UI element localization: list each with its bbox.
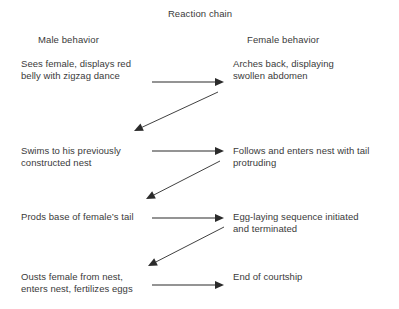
male-step-3-line-1: Prods base of female’s tail [21,211,161,223]
arrow-female1-to-male2 [134,92,218,131]
column-header-female: Female behavior [247,34,319,46]
male-behavior-step-3: Prods base of female’s tail [21,211,161,223]
arrow-male3-to-female3-head [215,214,224,222]
arrow-male1-to-female1 [152,78,224,86]
male-behavior-step-2: Swims to his previously constructed nest [21,145,161,170]
arrow-male2-to-female2-head [215,147,224,155]
male-step-4-line-2: enters nest, fertilizes eggs [21,283,161,295]
arrow-female2-to-male3-shaft [154,161,220,195]
arrow-male3-to-female3 [152,214,224,222]
page-title: Reaction chain [150,8,250,20]
male-step-2-line-2: constructed nest [21,157,161,169]
female-step-1-line-1: Arches back, displaying [233,58,393,70]
arrow-female3-to-male4 [148,227,224,266]
male-step-1-line-1: Sees female, displays red [21,58,161,70]
arrow-female3-to-male4-head [148,258,158,266]
male-step-4-line-1: Ousts female from nest, [21,271,161,283]
arrow-male2-to-female2 [152,147,224,155]
female-step-3-line-1: Egg-laying sequence initiated [233,211,393,223]
column-header-male: Male behavior [38,34,99,46]
reaction-chain-diagram: Reaction chain Male behavior Female beha… [0,0,399,309]
arrow-male4-to-female4-head [215,281,224,289]
female-behavior-step-1: Arches back, displaying swollen abdomen [233,58,393,83]
female-behavior-step-2: Follows and enters nest with tail protru… [233,145,393,170]
male-step-2-line-1: Swims to his previously [21,145,161,157]
female-behavior-step-4: End of courtship [233,271,393,283]
female-behavior-step-3: Egg-laying sequence initiated and termin… [233,211,393,236]
female-step-2-line-2: protruding [233,157,393,169]
arrow-male4-to-female4 [152,281,224,289]
female-step-1-line-2: swollen abdomen [233,70,393,82]
arrow-male1-to-female1-head [215,78,224,86]
male-behavior-step-1: Sees female, displays red belly with zig… [21,58,161,83]
female-step-3-line-2: and terminated [233,223,393,235]
male-behavior-step-4: Ousts female from nest, enters nest, fer… [21,271,161,296]
female-step-2-line-1: Follows and enters nest with tail [233,145,393,157]
arrow-female1-to-male2-shaft [142,92,218,127]
arrow-female1-to-male2-head [134,124,144,131]
female-step-4-line-1: End of courtship [233,271,393,283]
male-step-1-line-2: belly with zigzag dance [21,70,161,82]
arrow-female3-to-male4-shaft [156,227,224,262]
arrow-female2-to-male3-head [146,191,156,199]
